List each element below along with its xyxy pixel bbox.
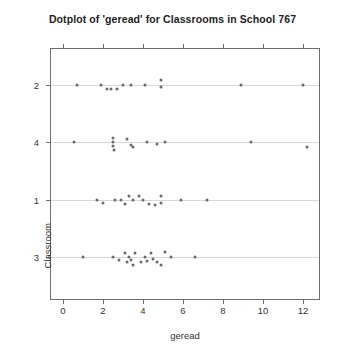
- x-axis-tick: [183, 299, 184, 304]
- y-axis-tick: [46, 142, 51, 143]
- x-axis-tick: [143, 299, 144, 304]
- y-axis-label: Classroom: [42, 223, 53, 268]
- data-point: [164, 251, 167, 254]
- gridline: [51, 85, 319, 86]
- data-point: [130, 83, 133, 86]
- data-point: [144, 83, 147, 86]
- data-point: [112, 137, 115, 140]
- x-axis-tick: [63, 299, 64, 304]
- x-axis-tick-label: 10: [258, 305, 269, 316]
- x-axis-tick: [223, 299, 224, 304]
- data-point: [130, 259, 133, 262]
- data-point: [140, 261, 143, 264]
- data-point: [124, 203, 127, 206]
- data-point: [82, 256, 85, 259]
- x-axis-tick-top: [263, 44, 264, 49]
- page-title: Dotplot of 'geread' for Classrooms in Sc…: [0, 13, 345, 25]
- x-axis-tick-label: 8: [220, 305, 225, 316]
- data-point: [154, 203, 157, 206]
- data-point: [180, 198, 183, 201]
- data-point: [124, 251, 127, 254]
- data-point: [106, 87, 109, 90]
- data-point: [134, 251, 137, 254]
- data-point: [150, 252, 153, 255]
- y-axis-tick-label: 2: [34, 79, 46, 90]
- data-point: [126, 260, 129, 263]
- gridline: [51, 142, 319, 143]
- y-axis-tick-label: 4: [34, 137, 46, 148]
- gridline: [51, 257, 319, 258]
- x-axis-tick-top: [103, 44, 104, 49]
- x-axis-tick-top: [143, 44, 144, 49]
- data-point: [306, 146, 309, 149]
- data-point: [302, 83, 305, 86]
- data-point: [118, 259, 121, 262]
- x-axis-tick-label: 0: [60, 305, 65, 316]
- y-axis-tick: [46, 85, 51, 86]
- data-point: [132, 146, 135, 149]
- data-point: [114, 198, 117, 201]
- data-point: [160, 194, 163, 197]
- data-point: [146, 260, 149, 263]
- plot-area: 2413Classroom024681012: [50, 48, 320, 300]
- x-axis-tick-label: 4: [140, 305, 145, 316]
- x-axis-tick: [263, 299, 264, 304]
- data-point: [76, 83, 79, 86]
- data-point: [138, 194, 141, 197]
- data-point: [142, 198, 145, 201]
- dotplot-chart: Dotplot of 'geread' for Classrooms in Sc…: [0, 0, 345, 354]
- data-point: [73, 141, 76, 144]
- data-point: [96, 198, 99, 201]
- y-axis-tick-label: 1: [34, 194, 46, 205]
- x-axis-tick: [303, 299, 304, 304]
- data-point: [116, 87, 119, 90]
- x-axis-label: geread: [50, 330, 320, 341]
- data-point: [112, 141, 115, 144]
- data-point: [113, 149, 116, 152]
- data-point: [156, 261, 159, 264]
- x-axis-tick-top: [183, 44, 184, 49]
- data-point: [160, 86, 163, 89]
- data-point: [160, 79, 163, 82]
- data-point: [112, 144, 115, 147]
- data-point: [112, 256, 115, 259]
- data-point: [148, 202, 151, 205]
- x-axis-tick: [103, 299, 104, 304]
- data-point: [102, 201, 105, 204]
- data-point: [250, 141, 253, 144]
- data-point: [240, 83, 243, 86]
- data-point: [160, 201, 163, 204]
- data-point: [152, 258, 155, 261]
- gridline: [51, 200, 319, 201]
- data-point: [156, 143, 159, 146]
- data-point: [144, 256, 147, 259]
- y-axis-tick: [46, 200, 51, 201]
- x-axis-tick-top: [303, 44, 304, 49]
- data-point: [160, 264, 163, 267]
- data-point: [120, 198, 123, 201]
- x-axis-tick-label: 2: [100, 305, 105, 316]
- x-axis-tick-label: 6: [180, 305, 185, 316]
- data-point: [132, 198, 135, 201]
- x-axis-tick-top: [63, 44, 64, 49]
- data-point: [126, 137, 129, 140]
- data-point: [206, 198, 209, 201]
- data-point: [146, 141, 149, 144]
- data-point: [194, 256, 197, 259]
- data-point: [170, 256, 173, 259]
- x-axis-tick-label: 12: [298, 305, 309, 316]
- data-point: [100, 83, 103, 86]
- x-axis-tick-top: [223, 44, 224, 49]
- data-point: [132, 263, 135, 266]
- data-point: [122, 83, 125, 86]
- data-point: [128, 194, 131, 197]
- data-point: [110, 87, 113, 90]
- data-point: [164, 141, 167, 144]
